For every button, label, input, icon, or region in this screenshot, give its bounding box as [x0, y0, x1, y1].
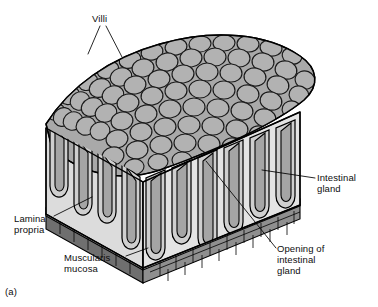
- figure-caption: (a): [5, 286, 17, 297]
- label-intestinal-gland: Intestinal gland: [317, 172, 356, 194]
- label-lamina-propria: Lamina propria: [14, 213, 46, 235]
- leader-villi-left: [88, 26, 100, 54]
- leader-villi-right: [106, 26, 122, 57]
- label-muscularis-mucosa: Muscularis mucosa: [64, 252, 110, 274]
- label-opening-of-intestinal-gland: Opening of intestinal gland: [277, 243, 324, 276]
- label-villi: Villi: [92, 13, 107, 24]
